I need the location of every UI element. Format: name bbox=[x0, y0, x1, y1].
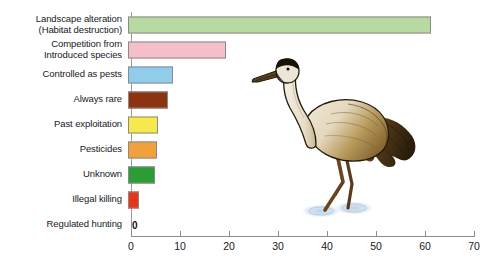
bar-row: Controlled as pests bbox=[0, 62, 483, 87]
category-label: Always rare bbox=[0, 94, 128, 105]
axis-tick bbox=[180, 231, 181, 237]
category-label: Competition from Introduced species bbox=[0, 39, 128, 60]
plot-area: Landscape alteration (Habitat destructio… bbox=[0, 0, 483, 260]
axis-tick-label: 0 bbox=[128, 240, 134, 252]
bar-row: Always rare bbox=[0, 87, 483, 112]
bar-row: Unknown bbox=[0, 162, 483, 187]
axis-tick bbox=[131, 231, 132, 237]
bar-chart-figure: Landscape alteration (Habitat destructio… bbox=[0, 0, 483, 260]
bar-always-rare bbox=[128, 91, 168, 108]
bar-row: Pesticides bbox=[0, 137, 483, 162]
bar-competition-introduced-species bbox=[128, 41, 226, 58]
bar-track bbox=[128, 87, 483, 112]
axis-tick bbox=[278, 231, 279, 237]
category-label: Past exploitation bbox=[0, 119, 128, 130]
category-label: Controlled as pests bbox=[0, 69, 128, 80]
bar-rows: Landscape alteration (Habitat destructio… bbox=[0, 12, 483, 237]
bar-landscape-alteration bbox=[128, 16, 431, 33]
bar-row: Landscape alteration (Habitat destructio… bbox=[0, 12, 483, 37]
category-label: Pesticides bbox=[0, 144, 128, 155]
bar-row: Competition from Introduced species bbox=[0, 37, 483, 62]
data-label-regulated-hunting: 0 bbox=[132, 219, 138, 230]
axis-tick-label: 10 bbox=[174, 240, 186, 252]
bar-track: 0 bbox=[128, 212, 483, 237]
axis-tick bbox=[229, 231, 230, 237]
axis-tick bbox=[376, 231, 377, 237]
bar-pesticides bbox=[128, 141, 157, 158]
axis-tick-label: 60 bbox=[419, 240, 431, 252]
bar-track bbox=[128, 162, 483, 187]
bar-controlled-as-pests bbox=[128, 66, 173, 83]
category-label: Illegal killing bbox=[0, 194, 128, 205]
bar-illegal-killing bbox=[128, 191, 139, 208]
category-label: Unknown bbox=[0, 169, 128, 180]
bar-track bbox=[128, 137, 483, 162]
axis-tick bbox=[474, 231, 475, 237]
bar-row: Past exploitation bbox=[0, 112, 483, 137]
axis-tick-label: 30 bbox=[272, 240, 284, 252]
axis-tick-label: 50 bbox=[370, 240, 382, 252]
bar-row: Illegal killing bbox=[0, 187, 483, 212]
value-axis-line bbox=[131, 236, 474, 237]
bar-track bbox=[128, 62, 483, 87]
category-label: Landscape alteration (Habitat destructio… bbox=[0, 14, 128, 35]
category-label: Regulated hunting bbox=[0, 219, 128, 230]
bar-unknown bbox=[128, 166, 155, 183]
bar-track bbox=[128, 37, 483, 62]
bar-track bbox=[128, 112, 483, 137]
bar-row: Regulated hunting 0 bbox=[0, 212, 483, 237]
bar-past-exploitation bbox=[128, 116, 158, 133]
bar-track bbox=[128, 187, 483, 212]
axis-tick bbox=[425, 231, 426, 237]
bar-track bbox=[128, 12, 483, 37]
axis-tick-label: 40 bbox=[321, 240, 333, 252]
axis-tick-label: 70 bbox=[468, 240, 480, 252]
axis-tick-label: 20 bbox=[223, 240, 235, 252]
axis-tick bbox=[327, 231, 328, 237]
